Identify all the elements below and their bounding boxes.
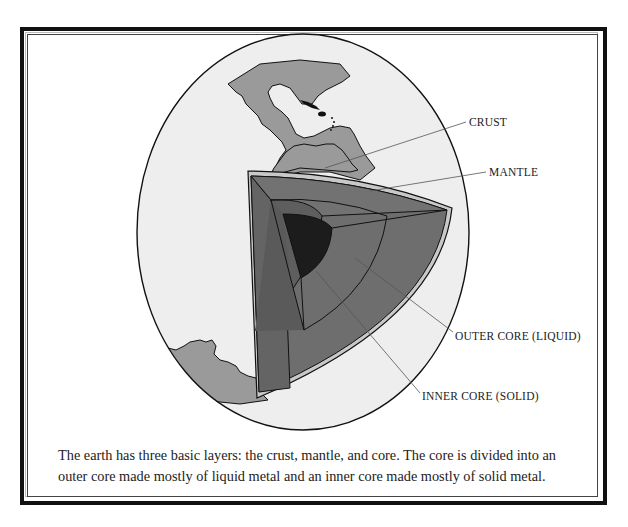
caption-line-2: outer core made mostly of liquid metal a…	[58, 466, 588, 487]
label-inner-core: INNER CORE (SOLID)	[422, 390, 539, 403]
caption-line-1: The earth has three basic layers: the cr…	[58, 445, 588, 466]
label-outer-core: OUTER CORE (LIQUID)	[455, 330, 581, 343]
island-small-3	[332, 125, 334, 127]
island-small-1	[331, 117, 333, 119]
figure-caption: The earth has three basic layers: the cr…	[58, 445, 588, 487]
island-hispaniola	[318, 112, 326, 117]
island-small-4	[330, 129, 332, 131]
label-mantle: MANTLE	[489, 166, 538, 178]
label-crust: CRUST	[469, 116, 507, 128]
island-small-2	[333, 121, 335, 123]
